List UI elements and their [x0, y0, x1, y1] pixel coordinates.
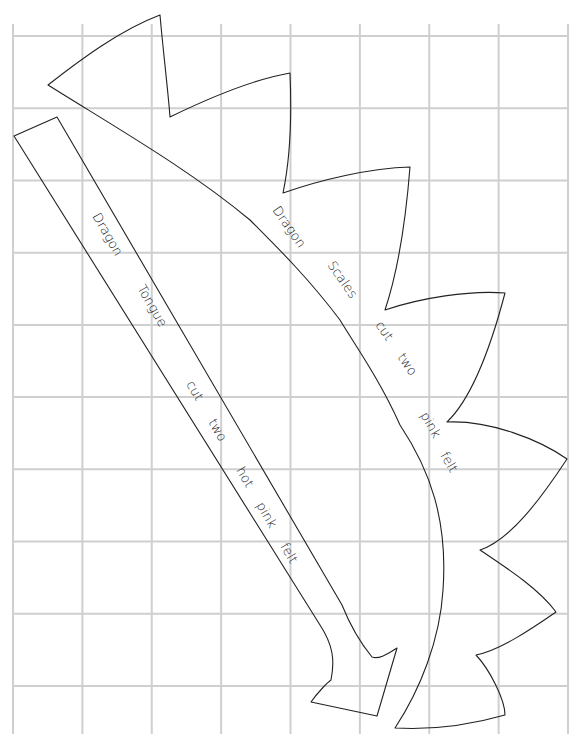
tongue-label-two: two [205, 416, 230, 444]
dragon-tongue-piece: Dragon Tongue cut two hot pink felt [14, 117, 397, 716]
tongue-label-dragon: Dragon [89, 210, 126, 258]
scales-label-pink: pink [417, 409, 444, 441]
tongue-label-hot: hot [233, 464, 257, 490]
scales-label-felt: felt [437, 449, 461, 475]
scales-label-dragon: Dragon [270, 203, 309, 250]
dragon-scales-piece: Dragon Scales cut two pink felt [48, 15, 567, 728]
dragon-scales-outline [48, 15, 567, 728]
scales-label-scales: Scales [325, 258, 361, 301]
scales-label-cut: cut [373, 318, 397, 343]
dragon-tongue-outline [14, 117, 397, 716]
pattern-sheet: Dragon Scales cut two pink felt Dragon T… [0, 0, 579, 747]
tongue-label-cut: cut [183, 378, 206, 403]
scales-label-two: two [395, 350, 421, 378]
